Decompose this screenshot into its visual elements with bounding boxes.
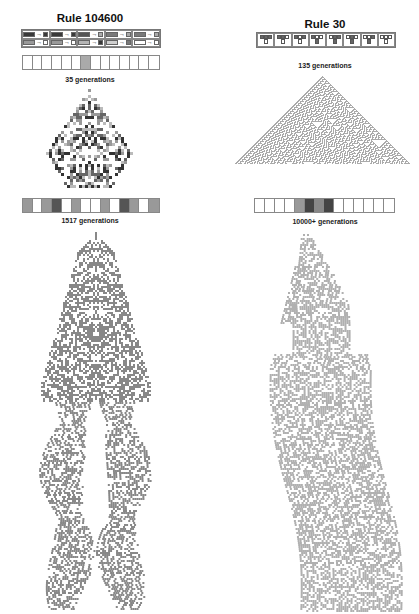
rule-icon: →	[132, 39, 160, 48]
cell	[110, 199, 120, 212]
cell	[91, 199, 101, 212]
rule-icon: →	[77, 39, 105, 48]
rule-icon	[326, 33, 343, 47]
rule-104600-table: →→→→→→→→→→	[21, 29, 161, 48]
cell	[255, 199, 265, 212]
cell	[285, 199, 295, 212]
cell	[81, 56, 91, 69]
cell	[384, 199, 394, 212]
cell	[130, 199, 140, 212]
cell	[265, 199, 275, 212]
arrow-right-icon: →	[64, 32, 70, 37]
cell	[62, 56, 72, 69]
cell	[23, 56, 33, 69]
cell	[110, 56, 120, 69]
arrow-right-icon: →	[119, 40, 125, 45]
cell	[81, 199, 91, 212]
rule-30-table	[256, 32, 396, 48]
rule-icon	[257, 33, 274, 47]
rule-icon	[343, 33, 360, 47]
cell	[324, 199, 334, 212]
caption-35-generations: 35 generations	[20, 76, 160, 83]
rule-icon: →	[77, 30, 105, 39]
rule-104600-initial-state-2	[22, 198, 160, 213]
rule-icon: →	[50, 30, 78, 39]
rule-30-initial-state	[254, 198, 395, 213]
cell	[374, 199, 384, 212]
cell	[354, 199, 364, 212]
cell	[62, 199, 72, 212]
cell	[315, 199, 325, 212]
cell	[149, 56, 159, 69]
cell	[364, 199, 374, 212]
cell	[120, 199, 130, 212]
arrow-right-icon: →	[147, 32, 153, 37]
rule-104600-35-gen-pattern	[40, 86, 140, 188]
rule-104600-1517-gen-pattern	[30, 232, 160, 610]
cell	[305, 199, 315, 212]
rule-icon: →	[50, 39, 78, 48]
cell	[33, 199, 43, 212]
rule-icon	[274, 33, 291, 47]
arrow-right-icon: →	[36, 40, 42, 45]
caption-10000-generations: 10000+ generations	[255, 218, 395, 225]
cell	[42, 199, 52, 212]
rule-icon: →	[22, 39, 50, 48]
rule-icon	[361, 33, 378, 47]
cell	[120, 56, 130, 69]
cell	[52, 199, 62, 212]
cell	[334, 199, 344, 212]
rule-30-title: Rule 30	[260, 18, 390, 30]
rule-30-10000-gen-pattern	[265, 234, 405, 612]
rule-icon	[309, 33, 326, 47]
arrow-right-icon: →	[119, 32, 125, 37]
rule-104600-initial-state-1	[22, 55, 160, 70]
cell	[42, 56, 52, 69]
rule-icon: →	[22, 30, 50, 39]
arrow-right-icon: →	[36, 32, 42, 37]
rule-icon: →	[105, 30, 133, 39]
arrow-right-icon: →	[91, 32, 97, 37]
arrow-right-icon: →	[64, 40, 70, 45]
cell	[72, 199, 82, 212]
cell	[52, 56, 62, 69]
rule-icon	[292, 33, 309, 47]
cell	[101, 199, 111, 212]
cell	[72, 56, 82, 69]
cell	[344, 199, 354, 212]
cell	[295, 199, 305, 212]
cell	[139, 56, 149, 69]
cell	[33, 56, 43, 69]
rule-30-135-gen-pattern	[232, 76, 414, 164]
caption-1517-generations: 1517 generations	[20, 217, 160, 224]
caption-135-generations: 135 generations	[260, 62, 390, 69]
rule-icon: →	[105, 39, 133, 48]
cell	[130, 56, 140, 69]
cell	[101, 56, 111, 69]
cell	[275, 199, 285, 212]
cell	[149, 199, 159, 212]
rule-icon	[378, 33, 395, 47]
cell	[139, 199, 149, 212]
cell	[91, 56, 101, 69]
cell	[23, 199, 33, 212]
arrow-right-icon: →	[147, 40, 153, 45]
rule-104600-title: Rule 104600	[20, 12, 160, 24]
arrow-right-icon: →	[91, 40, 97, 45]
rule-icon: →	[132, 30, 160, 39]
